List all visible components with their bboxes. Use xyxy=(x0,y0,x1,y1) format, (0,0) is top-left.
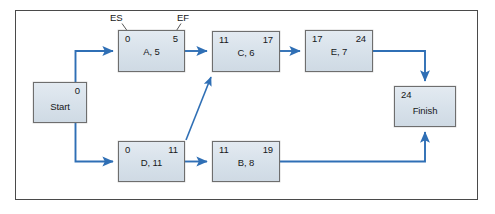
node-start-ef: 0 xyxy=(75,86,80,96)
node-a[interactable]: 0 5 A, 5 xyxy=(118,30,185,72)
ef-callout-label: EF xyxy=(177,13,189,23)
node-a-ef: 5 xyxy=(173,34,178,44)
node-d-ef: 11 xyxy=(168,145,178,155)
node-e-label: E, 7 xyxy=(306,47,372,57)
node-d-es: 0 xyxy=(125,145,130,155)
es-callout-label: ES xyxy=(110,13,122,23)
node-e-ef: 24 xyxy=(356,34,366,44)
network-diagram-canvas: ES EF 0 Start 0 5 A, 5 11 17 C, 6 17 24 … xyxy=(0,0,495,214)
node-start[interactable]: 0 Start xyxy=(33,82,87,123)
node-finish-label: Finish xyxy=(395,106,455,116)
node-c-es: 11 xyxy=(219,35,229,45)
node-e[interactable]: 17 24 E, 7 xyxy=(305,30,373,72)
node-d[interactable]: 0 11 D, 11 xyxy=(118,141,185,182)
node-finish[interactable]: 24 Finish xyxy=(394,86,456,127)
node-c-ef: 17 xyxy=(263,35,273,45)
node-b-ef: 19 xyxy=(263,145,273,155)
node-c-label: C, 6 xyxy=(213,48,279,58)
node-finish-es: 24 xyxy=(401,90,411,100)
node-a-label: A, 5 xyxy=(119,47,184,57)
node-e-es: 17 xyxy=(312,34,322,44)
node-c[interactable]: 11 17 C, 6 xyxy=(212,31,280,72)
node-b-es: 11 xyxy=(219,145,229,155)
node-b[interactable]: 11 19 B, 8 xyxy=(212,141,280,182)
node-start-label: Start xyxy=(34,102,86,112)
node-a-es: 0 xyxy=(125,34,130,44)
node-b-label: B, 8 xyxy=(213,158,279,168)
node-d-label: D, 11 xyxy=(119,158,184,168)
